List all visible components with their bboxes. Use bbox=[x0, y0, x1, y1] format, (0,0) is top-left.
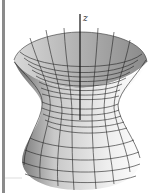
hyperboloid-figure bbox=[0, 0, 159, 193]
z-axis-label: z bbox=[83, 13, 88, 23]
